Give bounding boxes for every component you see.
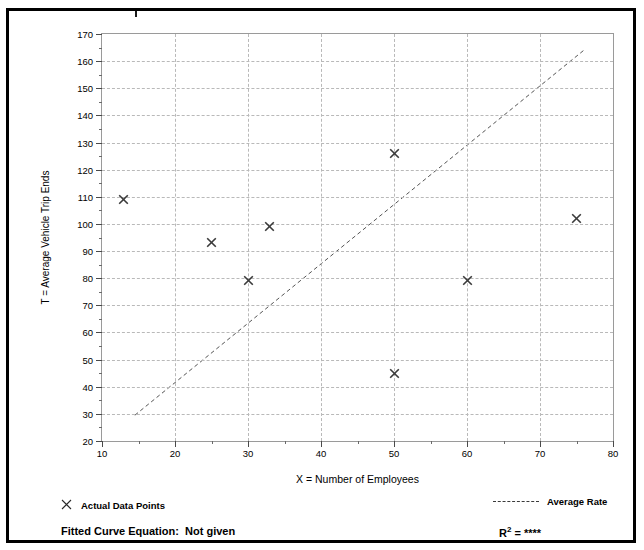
x-axis-tick-label: 70 <box>535 448 546 459</box>
y-axis-tick-minor <box>99 238 102 239</box>
legend-label-actual-data-points: Actual Data Points <box>81 500 165 511</box>
top-edge-artifact <box>135 11 137 17</box>
y-axis-tick-minor <box>99 156 102 157</box>
data-point-marker <box>206 237 217 248</box>
y-axis-tick-major <box>96 414 102 415</box>
x-axis-tick-major <box>540 441 541 447</box>
legend-entry-average-rate: Average Rate <box>493 496 607 507</box>
data-point-marker <box>389 148 400 159</box>
x-axis-tick-label: 60 <box>462 448 473 459</box>
x-axis-tick-major <box>248 441 249 447</box>
y-axis-tick-minor <box>99 346 102 347</box>
y-axis-tick-label: 80 <box>82 273 93 284</box>
chart-figure-frame: T = Average Vehicle Trip Ends 2030405060… <box>6 8 636 543</box>
x-axis-tick-major <box>175 441 176 447</box>
y-axis-tick-minor <box>99 319 102 320</box>
y-axis-tick-minor <box>99 400 102 401</box>
x-axis-tick-major <box>467 441 468 447</box>
y-axis-tick-major <box>96 224 102 225</box>
data-point-marker <box>118 194 129 205</box>
x-axis-title: X = Number of Employees <box>101 473 614 485</box>
x-axis-tick-major <box>321 441 322 447</box>
y-axis-tick-label: 110 <box>78 191 93 202</box>
y-axis-tick-minor <box>99 292 102 293</box>
y-axis-tick-label: 90 <box>82 246 93 257</box>
legend: Actual Data Points Average Rate <box>9 496 633 516</box>
y-axis-tick-minor <box>99 129 102 130</box>
legend-entry-actual-data-points: Actual Data Points <box>61 496 165 514</box>
y-axis-tick-minor <box>99 183 102 184</box>
y-axis-tick-major <box>96 305 102 306</box>
x-axis-tick-label: 50 <box>389 448 400 459</box>
x-axis-tick-minor <box>358 441 359 444</box>
x-axis-tick-minor <box>504 441 505 444</box>
y-axis-tick-minor <box>99 102 102 103</box>
y-axis-tick-label: 160 <box>77 56 93 67</box>
y-axis-tick-label: 40 <box>82 381 93 392</box>
y-axis-tick-label: 150 <box>77 83 93 94</box>
x-axis-tick-label: 20 <box>170 448 181 459</box>
x-axis-tick-label: 10 <box>97 448 108 459</box>
y-axis-tick-major <box>96 88 102 89</box>
x-axis-tick-label: 40 <box>316 448 327 459</box>
y-axis-tick-label: 60 <box>82 327 93 338</box>
y-axis-tick-label: 70 <box>82 300 93 311</box>
annotation-row: Fitted Curve Equation: Not given R2 = **… <box>9 525 633 545</box>
y-axis-tick-minor <box>99 75 102 76</box>
x-axis-tick-minor <box>577 441 578 444</box>
r-squared-exponent: 2 <box>507 525 511 534</box>
r-squared-value: **** <box>524 527 541 539</box>
y-axis-tick-minor <box>99 265 102 266</box>
fitted-curve-equation-value: Not given <box>185 525 235 537</box>
y-axis-tick-minor <box>99 373 102 374</box>
y-axis-tick-label: 140 <box>77 110 93 121</box>
y-axis-tick-major <box>96 170 102 171</box>
plot-area: 2030405060708090100110120130140150160170… <box>101 33 614 442</box>
data-point-marker <box>264 221 275 232</box>
y-axis-tick-major <box>96 278 102 279</box>
fitted-curve-equation-label: Fitted Curve Equation: <box>61 525 179 537</box>
y-axis-tick-minor <box>99 427 102 428</box>
y-axis-tick-label: 100 <box>77 218 93 229</box>
x-axis-tick-minor <box>139 441 140 444</box>
r-squared-annotation: R2 = **** <box>499 525 541 539</box>
y-axis-tick-major <box>96 197 102 198</box>
x-axis-tick-minor <box>212 441 213 444</box>
y-axis-tick-label: 120 <box>77 164 93 175</box>
legend-label-average-rate: Average Rate <box>547 496 607 507</box>
data-point-marker <box>571 213 582 224</box>
y-axis-tick-label: 170 <box>77 29 93 40</box>
y-axis-tick-label: 30 <box>82 408 93 419</box>
x-axis-tick-label: 30 <box>243 448 254 459</box>
r-squared-equals: = <box>514 527 520 539</box>
fitted-curve-equation: Fitted Curve Equation: Not given <box>61 525 235 537</box>
data-point-marker <box>462 275 473 286</box>
r-squared-label: R <box>499 527 507 539</box>
x-axis-tick-major <box>394 441 395 447</box>
y-axis-tick-major <box>96 61 102 62</box>
y-axis-title: T = Average Vehicle Trip Ends <box>39 33 53 442</box>
y-axis-tick-major <box>96 360 102 361</box>
x-axis-tick-major <box>102 441 103 447</box>
x-axis-tick-minor <box>431 441 432 444</box>
y-axis-tick-minor <box>99 48 102 49</box>
y-axis-tick-major <box>96 387 102 388</box>
y-axis-tick-major <box>96 251 102 252</box>
x-axis-tick-label: 80 <box>608 448 619 459</box>
data-point-marker <box>389 368 400 379</box>
y-axis-tick-major <box>96 34 102 35</box>
x-axis-tick-major <box>613 441 614 447</box>
y-axis-tick-label: 20 <box>82 436 93 447</box>
y-axis-tick-label: 130 <box>77 137 93 148</box>
x-marker-icon <box>61 496 72 514</box>
data-point-marker <box>243 275 254 286</box>
y-axis-tick-major <box>96 115 102 116</box>
average-rate-trendline <box>102 34 615 443</box>
y-axis-tick-major <box>96 143 102 144</box>
dashed-line-icon <box>493 501 539 502</box>
y-axis-tick-major <box>96 332 102 333</box>
y-axis-tick-minor <box>99 210 102 211</box>
y-axis-tick-label: 50 <box>82 354 93 365</box>
x-axis-tick-minor <box>285 441 286 444</box>
